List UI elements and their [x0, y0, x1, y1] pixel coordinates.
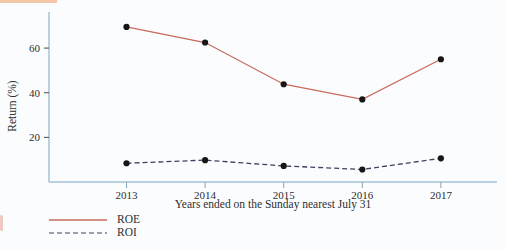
roi-data-point [202, 157, 208, 163]
legend-label-roe: ROE [117, 213, 140, 226]
roi-data-point [281, 163, 287, 169]
roe-data-point [359, 96, 365, 102]
roe-data-point [438, 56, 444, 62]
legend-label-roi: ROI [117, 226, 137, 239]
legend: ROE ROI [48, 213, 140, 239]
y-tick-label: 40 [29, 87, 41, 99]
roe-series-line [127, 27, 441, 100]
chart-figure: 20406020132014201520162017 Return (%) Ye… [0, 0, 506, 250]
roi-line-swatch [48, 230, 108, 236]
x-axis-title: Years ended on the Sunday nearest July 3… [49, 198, 497, 210]
roe-data-point [202, 39, 208, 45]
roe-data-point [123, 24, 129, 30]
y-axis-title: Return (%) [6, 71, 20, 141]
roi-data-point [438, 155, 444, 161]
roe-data-point [281, 81, 287, 87]
y-tick-label: 60 [29, 42, 41, 54]
y-tick-label: 20 [29, 131, 41, 143]
roi-data-point [123, 160, 129, 166]
roe-line-swatch [48, 217, 108, 223]
legend-item-roe: ROE [48, 213, 140, 226]
roi-data-point [359, 166, 365, 172]
legend-item-roi: ROI [48, 226, 140, 239]
